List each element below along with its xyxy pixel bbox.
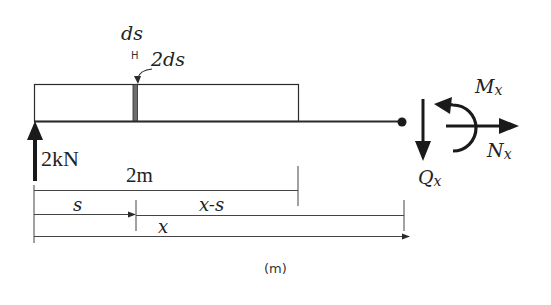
span-length-label: 2m: [126, 163, 153, 187]
shear-force-arrow-icon: [415, 99, 431, 161]
shear-force-label: Qx: [418, 166, 442, 189]
pointer-arrow-icon: [134, 69, 152, 84]
distributed-load-box: [35, 85, 299, 122]
reaction-force-label: 2kN: [41, 146, 79, 171]
x-minus-s-label: x-s: [199, 194, 224, 215]
cut-point-dot: [398, 118, 407, 127]
moment-label: Mx: [474, 75, 502, 98]
shaded-element-strip: [133, 85, 138, 122]
x-label: x: [158, 216, 168, 237]
normal-force-label: Nx: [486, 139, 512, 162]
moment-arrow-icon: [434, 97, 476, 151]
s-label: s: [73, 194, 82, 215]
beam-free-body-diagram: ds H 2ds 2kN 2m s x-s x (m) Qx Mx N: [0, 0, 551, 305]
ds-marker: H: [131, 50, 139, 61]
unit-label: (m): [264, 261, 287, 276]
ds-label: ds: [121, 22, 143, 44]
normal-force-arrow-icon: [446, 118, 519, 134]
2ds-label: 2ds: [150, 48, 185, 70]
